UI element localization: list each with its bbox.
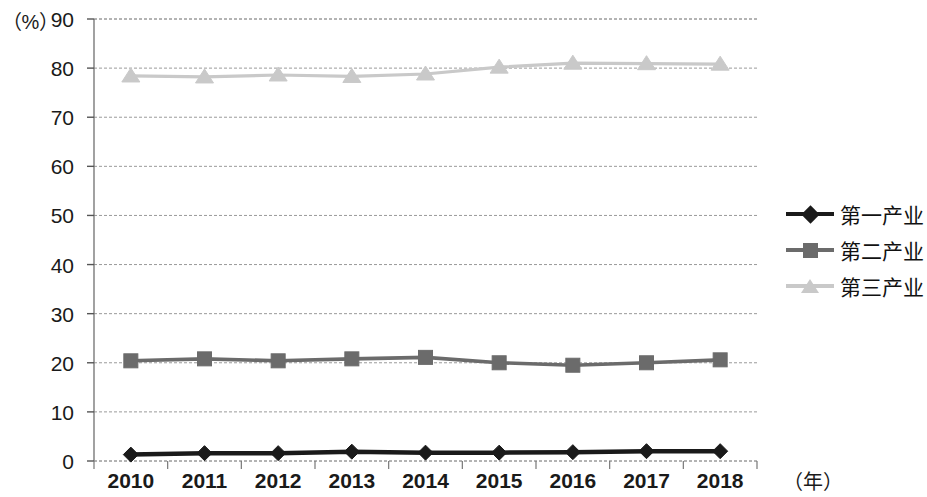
data-point-第二产业-2011: [198, 352, 212, 366]
data-point-第二产业-2015: [492, 356, 506, 370]
series-第三产业: [122, 55, 729, 83]
legend-marker-square-icon: [803, 243, 818, 258]
legend-swatch-diamond: [786, 203, 834, 225]
data-point-第一产业-2010: [123, 447, 138, 462]
x-axis-tick-2012: 2012: [238, 470, 318, 491]
data-point-第一产业-2016: [565, 445, 580, 460]
x-axis-tick-2016: 2016: [533, 470, 613, 491]
x-axis-tick-2017: 2017: [607, 470, 687, 491]
data-point-第二产业-2013: [345, 352, 359, 366]
x-axis-tick-2013: 2013: [312, 470, 392, 491]
legend-label: 第二产业: [840, 235, 924, 265]
legend-swatch-square: [786, 239, 834, 261]
legend-marker-triangle-icon: [801, 279, 819, 293]
line-chart: （%） 9080706050403020100 2010201120122013…: [0, 0, 927, 497]
data-point-第二产业-2010: [124, 354, 138, 368]
data-point-第二产业-2014: [419, 350, 433, 364]
x-axis-tick-2015: 2015: [459, 470, 539, 491]
data-point-第一产业-2015: [492, 445, 507, 460]
legend-swatch-triangle: [786, 275, 834, 297]
legend-label: 第一产业: [840, 199, 924, 229]
data-point-第一产业-2018: [713, 444, 728, 459]
legend-item-第三产业[interactable]: 第三产业: [786, 268, 927, 304]
data-point-第一产业-2014: [418, 445, 433, 460]
x-axis-tick-2014: 2014: [386, 470, 466, 491]
data-point-第二产业-2012: [271, 354, 285, 368]
chart-legend: 第一产业第二产业第三产业: [786, 196, 927, 304]
series-第二产业: [124, 350, 727, 372]
x-axis-unit-label: （年）: [783, 466, 843, 495]
legend-marker-diamond-icon: [801, 205, 819, 223]
series-第一产业: [123, 444, 727, 462]
x-axis-tick-2010: 2010: [91, 470, 171, 491]
legend-label: 第三产业: [840, 271, 924, 301]
x-axis-tick-2018: 2018: [680, 470, 760, 491]
data-point-第二产业-2016: [566, 358, 580, 372]
data-point-第一产业-2011: [197, 446, 212, 461]
data-point-第一产业-2013: [344, 444, 359, 459]
x-axis-tick-2011: 2011: [165, 470, 245, 491]
data-point-第二产业-2017: [640, 356, 654, 370]
legend-item-第二产业[interactable]: 第二产业: [786, 232, 927, 268]
data-point-第一产业-2012: [271, 446, 286, 461]
data-point-第一产业-2017: [639, 444, 654, 459]
data-point-第二产业-2018: [713, 353, 727, 367]
legend-item-第一产业[interactable]: 第一产业: [786, 196, 927, 232]
